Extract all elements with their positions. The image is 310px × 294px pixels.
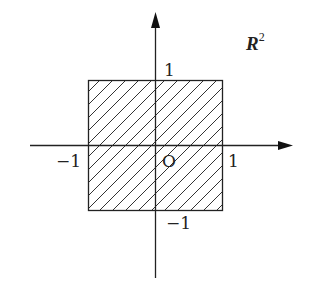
x-axis-arrow-icon <box>278 141 293 150</box>
y-tick-negative-label: −1 <box>166 215 191 232</box>
space-label-exponent: 2 <box>259 30 265 44</box>
y-axis-arrow-icon <box>151 12 160 28</box>
origin-label: O <box>162 153 176 170</box>
space-label: R2 <box>246 33 265 53</box>
x-tick-positive-label: 1 <box>228 153 239 170</box>
y-tick-positive-label: 1 <box>164 62 175 79</box>
x-tick-negative-label: −1 <box>56 153 81 170</box>
space-label-base: R <box>246 33 259 54</box>
